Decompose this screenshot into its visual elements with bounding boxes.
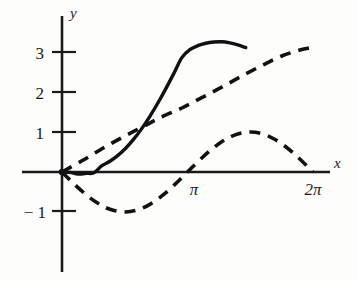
y-axis-label: y: [68, 5, 77, 21]
x-axis-label: x: [333, 155, 341, 171]
x-tick-label-pi: π: [190, 180, 199, 199]
origin-marker: [59, 169, 65, 175]
x-tick-label-2pi: 2π: [304, 180, 322, 199]
y-tick-label-1: 1: [36, 124, 45, 143]
curve-straight-line: [62, 47, 313, 172]
y-tick-label-3: 3: [36, 44, 45, 63]
math-figure-canvas: 3 2 1 − 1 π 2π y x: [0, 0, 357, 281]
y-tick-label-2: 2: [36, 84, 45, 103]
y-tick-label-minus-1: − 1: [24, 203, 46, 222]
coordinate-plot: 3 2 1 − 1 π 2π y x: [0, 0, 357, 281]
curve-x-minus-sine: [62, 42, 246, 174]
